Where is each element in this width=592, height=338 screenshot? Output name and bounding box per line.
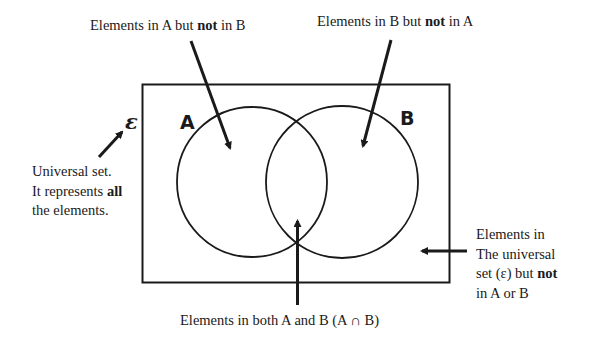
annotation-b-only: Elements in B but not in A — [317, 12, 473, 32]
annotation-intersection: Elements in both A and B (A ∩ B) — [180, 311, 379, 331]
annotation-bold: not — [425, 13, 445, 29]
annotation-line: The universal — [476, 245, 557, 265]
annotation-text: Elements in B but — [317, 13, 425, 29]
annotation-text: in B — [217, 17, 245, 33]
arrow-universal — [99, 132, 122, 157]
annotation-bold: not — [537, 265, 557, 281]
annotation-line: It represents all — [32, 182, 122, 202]
universal-set-symbol: ε — [125, 111, 138, 133]
annotation-line: the elements. — [32, 201, 122, 221]
annotation-text: Elements in A but — [90, 17, 197, 33]
annotation-bold: all — [107, 183, 122, 199]
set-a-circle — [177, 107, 327, 257]
set-b-label: B — [400, 108, 414, 128]
arrow-b-only — [363, 40, 391, 146]
annotation-line: Elements in — [476, 225, 557, 245]
annotation-line: in A or B — [476, 284, 557, 304]
annotation-line: set (ε) but not — [476, 264, 557, 284]
annotation-bold: not — [197, 17, 217, 33]
annotation-text: set (ε) but — [476, 265, 537, 281]
set-a-label: A — [180, 112, 195, 132]
set-b-circle — [266, 106, 418, 258]
annotation-outside-sets: Elements in The universal set (ε) but no… — [476, 225, 557, 303]
annotation-universal-set: Universal set. It represents all the ele… — [32, 162, 122, 221]
annotation-text: It represents — [32, 183, 107, 199]
annotation-line: Universal set. — [32, 162, 122, 182]
annotation-text: in A — [445, 13, 473, 29]
annotation-a-only: Elements in A but not in B — [90, 16, 246, 36]
venn-diagram: ε A B Elements in A but not in B Element… — [0, 0, 592, 338]
